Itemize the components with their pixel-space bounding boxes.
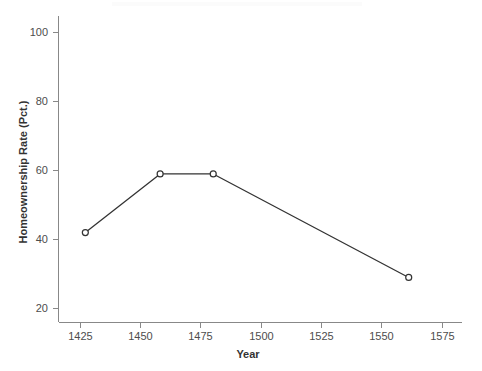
data-point-marker	[210, 171, 216, 177]
x-tick-label-1525: 1525	[309, 330, 333, 342]
y-tick-label-100: 100	[30, 26, 48, 38]
y-axis-title: Homeownership Rate (Pct.)	[17, 100, 29, 243]
y-tick-label-40: 40	[36, 233, 48, 245]
y-tick-label-80: 80	[36, 95, 48, 107]
x-tick-label-1550: 1550	[369, 330, 393, 342]
data-point-marker	[406, 274, 412, 280]
x-tick-label-1450: 1450	[128, 330, 152, 342]
x-axis-title: Year	[236, 348, 260, 360]
x-tick-label-1575: 1575	[430, 330, 454, 342]
x-tick-label-1500: 1500	[249, 330, 273, 342]
x-tick-label-1425: 1425	[68, 330, 92, 342]
x-tick-label-1475: 1475	[188, 330, 212, 342]
line-chart: 100 80 60 40 20 1425 1450 1475 1500 1525…	[0, 0, 482, 371]
data-point-marker	[82, 230, 88, 236]
y-tick-label-60: 60	[36, 164, 48, 176]
y-tick-label-20: 20	[36, 302, 48, 314]
chart-canvas: 100 80 60 40 20 1425 1450 1475 1500 1525…	[0, 0, 482, 371]
data-point-marker	[157, 171, 163, 177]
top-edge-artifact	[112, 2, 362, 6]
chart-background	[0, 0, 482, 371]
